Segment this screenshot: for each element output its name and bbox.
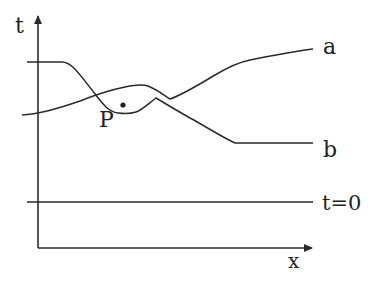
curve-b-label: b [323,137,337,162]
diagram-canvas: t x a b t=0 P [0,0,376,283]
t-axis-label: t [15,13,24,38]
point-p-label: P [99,107,114,132]
curve-a-label: a [323,34,336,59]
x-axis-label: x [288,249,300,273]
t-zero-label: t=0 [322,191,361,215]
point-p-dot [120,102,125,107]
curve-b [27,62,313,143]
